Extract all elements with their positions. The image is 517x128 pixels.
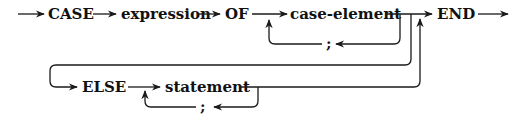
- case-syntax-diagram: CASE expression OF case-element END ; EL…: [0, 0, 517, 128]
- case-keyword: CASE: [48, 5, 94, 23]
- branch-to-else: [50, 14, 411, 87]
- statement-separator: ;: [200, 98, 206, 116]
- case-element-loop-left: [269, 20, 322, 44]
- else-keyword: ELSE: [82, 78, 126, 96]
- case-separator: ;: [326, 35, 332, 53]
- statement-to-end: [240, 19, 420, 87]
- end-keyword: END: [437, 5, 475, 23]
- of-keyword: OF: [225, 5, 249, 23]
- statement-node: statement: [165, 78, 250, 96]
- case-element-node: case-element: [290, 5, 401, 23]
